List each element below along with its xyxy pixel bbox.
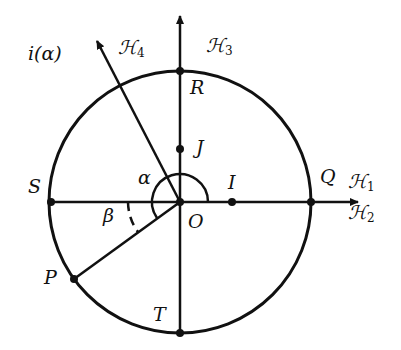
- label-t: T: [153, 305, 166, 324]
- h1-sub: 1: [367, 180, 375, 194]
- label-r: R: [190, 78, 204, 97]
- point-j: [176, 145, 184, 153]
- alpha-label: α: [138, 168, 151, 187]
- point-s: [47, 198, 55, 206]
- h3-sub: 3: [225, 44, 233, 58]
- h4-label: ℋ4: [118, 38, 145, 59]
- h2-sub: 2: [367, 211, 375, 225]
- label-p: P: [44, 268, 57, 287]
- beta-angle-arc: [128, 202, 138, 232]
- h4-sub: 4: [137, 46, 145, 60]
- label-i: I: [228, 173, 236, 192]
- label-j: J: [196, 138, 204, 157]
- h2-name: ℋ: [348, 201, 367, 223]
- point-r: [176, 67, 184, 75]
- segment-op: [74, 202, 180, 279]
- h3-name: ℋ: [206, 34, 225, 56]
- h4-name: ℋ: [118, 36, 137, 58]
- h2-label: ℋ2: [348, 203, 375, 224]
- point-i: [228, 198, 236, 206]
- label-s: S: [28, 177, 41, 196]
- label-o: O: [188, 212, 204, 231]
- point-p: [70, 275, 78, 283]
- beta-label: β: [103, 206, 114, 225]
- h1-name: ℋ: [348, 170, 367, 192]
- h1-label: ℋ1: [348, 172, 375, 193]
- i-alpha-label: i(α): [28, 44, 62, 63]
- point-q: [307, 198, 315, 206]
- point-o: [176, 198, 184, 206]
- point-t: [176, 329, 184, 337]
- h3-label: ℋ3: [206, 36, 233, 57]
- label-q: Q: [320, 167, 336, 186]
